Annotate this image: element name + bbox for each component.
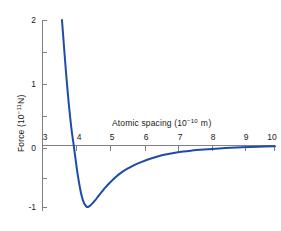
y-axis-title-tail: N)	[16, 95, 26, 104]
x-axis-title-exponent: −10	[187, 117, 198, 124]
x-axis-title-base: Atomic spacing (10	[112, 118, 187, 128]
x-tick-label-3: 3	[43, 133, 48, 142]
chart-figure: 2 1 0 -1 3 4 5 6 7 8 9 10 Atomic spacing…	[0, 0, 281, 231]
y-tick-label-2: 2	[24, 16, 36, 25]
force-curve	[62, 20, 275, 207]
x-tick-label-8: 8	[211, 133, 216, 142]
x-tick-label-4: 4	[77, 133, 82, 142]
x-tick-label-10: 10	[267, 133, 276, 142]
force-vs-spacing-plot	[0, 0, 281, 231]
y-axis-title-exponent: −11	[15, 104, 22, 114]
axis-ticks	[42, 21, 275, 208]
y-tick-label-neg1: -1	[22, 203, 36, 212]
y-tick-label-1: 1	[24, 80, 36, 89]
x-tick-label-9: 9	[244, 133, 249, 142]
x-tick-label-5: 5	[110, 133, 115, 142]
axis-lines	[42, 20, 275, 211]
x-tick-label-6: 6	[144, 133, 149, 142]
x-axis-title: Atomic spacing (10−10 m)	[112, 118, 212, 128]
y-axis-title-base: Force (10	[16, 114, 26, 152]
x-tick-label-7: 7	[178, 133, 183, 142]
y-axis-title: Force (10−11N)	[16, 95, 26, 152]
x-axis-title-tail: m)	[198, 118, 212, 128]
